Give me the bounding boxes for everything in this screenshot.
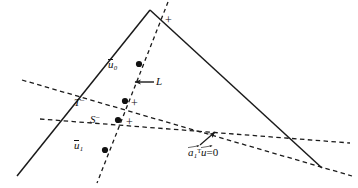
cone-left-edge bbox=[17, 10, 150, 176]
vector-u: u bbox=[201, 147, 207, 158]
label-l: L bbox=[156, 76, 162, 87]
label-u0-subscript: 0 bbox=[114, 64, 117, 71]
diagram-canvas bbox=[0, 0, 358, 188]
lower-dashed-line bbox=[40, 119, 350, 143]
vector-u-base: u bbox=[201, 146, 207, 158]
label-hyperplane-equation: a1Tu=0 bbox=[188, 147, 218, 160]
point-u0 bbox=[136, 61, 142, 67]
point-t bbox=[122, 98, 128, 104]
label-t-superscript: − bbox=[80, 96, 84, 105]
cone-outline bbox=[17, 10, 322, 176]
plus-marker-top: + bbox=[165, 14, 172, 26]
vector-a: a bbox=[188, 147, 194, 158]
plus-marker-middle: + bbox=[131, 97, 138, 109]
label-u1-subscript: 1 bbox=[80, 145, 83, 152]
label-s-superscript: − bbox=[96, 113, 100, 122]
label-u0: u0 bbox=[108, 59, 117, 72]
plus-marker-lower: + bbox=[126, 116, 133, 128]
equation-relation: =0 bbox=[207, 146, 219, 158]
geometric-diagram: u0 u1 T− S− L a1Tu=0 + + + bbox=[0, 0, 358, 188]
label-s-minus: S− bbox=[90, 114, 100, 125]
label-t-minus: T− bbox=[74, 97, 84, 108]
point-s bbox=[115, 117, 121, 123]
cone-right-edge bbox=[150, 10, 322, 168]
vector-a-base: a bbox=[188, 146, 194, 158]
upper-dashed-line bbox=[22, 80, 352, 176]
steep-dashed-line bbox=[97, 2, 168, 183]
label-u1: u1 bbox=[74, 140, 83, 153]
point-u1 bbox=[102, 147, 108, 153]
